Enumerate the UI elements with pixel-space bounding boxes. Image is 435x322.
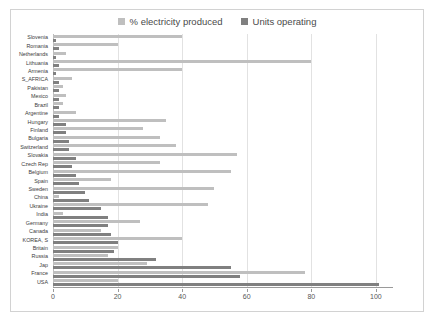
bar-units-operating bbox=[53, 47, 59, 50]
bar-pct-electricity bbox=[53, 52, 66, 55]
bar-pct-electricity bbox=[53, 229, 101, 232]
bar-units-operating bbox=[53, 39, 56, 42]
bar-units-operating bbox=[53, 123, 66, 126]
bar-pct-electricity bbox=[53, 271, 305, 274]
legend-entry-pct-electricity: % electricity produced bbox=[118, 17, 223, 27]
bar-row bbox=[53, 68, 392, 76]
bar-units-operating bbox=[53, 216, 108, 219]
bar-units-operating bbox=[53, 182, 79, 185]
category-label: Canada bbox=[29, 229, 48, 234]
bar-row bbox=[53, 228, 392, 236]
bar-pct-electricity bbox=[53, 187, 214, 190]
bar-row bbox=[53, 236, 392, 244]
x-tick-label-100: 100 bbox=[370, 293, 382, 300]
bar-units-operating bbox=[53, 148, 69, 151]
bar-row bbox=[53, 152, 392, 160]
bar-pct-electricity bbox=[53, 178, 111, 181]
category-label: Switzerland bbox=[20, 145, 48, 150]
bar-units-operating bbox=[53, 199, 89, 202]
bar-pct-electricity bbox=[53, 144, 176, 147]
x-tick-mark-60 bbox=[247, 289, 248, 292]
bar-pct-electricity bbox=[53, 136, 160, 139]
bar-row bbox=[53, 220, 392, 228]
x-tick-mark-0 bbox=[53, 289, 54, 292]
bar-units-operating bbox=[53, 250, 114, 253]
legend-swatch-pct-electricity bbox=[118, 18, 125, 25]
category-label: Netherlands bbox=[19, 52, 48, 57]
bar-units-operating bbox=[53, 81, 59, 84]
category-label: Spain bbox=[34, 179, 48, 184]
bar-row bbox=[53, 144, 392, 152]
x-tick-mark-20 bbox=[118, 289, 119, 292]
bar-row bbox=[53, 270, 392, 278]
category-label: China bbox=[34, 196, 48, 201]
category-axis-labels: SloveniaRomaniaNetherlandsLithuaniaArmen… bbox=[11, 34, 51, 287]
category-label: Slovakia bbox=[28, 154, 48, 159]
category-label: USA bbox=[37, 280, 48, 285]
bar-row bbox=[53, 253, 392, 261]
x-tick-label-80: 80 bbox=[307, 293, 315, 300]
category-label: Jap bbox=[39, 263, 48, 268]
bar-units-operating bbox=[53, 266, 231, 269]
category-label: Ukraine bbox=[29, 204, 48, 209]
legend-label-units-operating: Units operating bbox=[253, 17, 317, 27]
bar-units-operating bbox=[53, 157, 76, 160]
category-label: Russia bbox=[32, 255, 48, 260]
category-label: S_AFRICA bbox=[22, 78, 48, 83]
bar-units-operating bbox=[53, 64, 59, 67]
x-tick-mark-100 bbox=[376, 289, 377, 292]
bar-pct-electricity bbox=[53, 262, 147, 265]
category-label: Slovenia bbox=[27, 36, 48, 41]
category-label: Sweden bbox=[29, 187, 48, 192]
bar-units-operating bbox=[53, 207, 101, 210]
legend-swatch-units-operating bbox=[241, 18, 248, 25]
bar-units-operating bbox=[53, 283, 379, 286]
category-label: Romania bbox=[26, 44, 48, 49]
category-label: India bbox=[36, 213, 48, 218]
bar-row bbox=[53, 59, 392, 67]
bar-row bbox=[53, 101, 392, 109]
bar-pct-electricity bbox=[53, 111, 76, 114]
bar-units-operating bbox=[53, 191, 85, 194]
bar-row bbox=[53, 85, 392, 93]
bar-row bbox=[53, 279, 392, 287]
category-label: Mexico bbox=[31, 95, 48, 100]
bar-row bbox=[53, 34, 392, 42]
bar-row bbox=[53, 135, 392, 143]
bar-pct-electricity bbox=[53, 35, 182, 38]
bar-row bbox=[53, 186, 392, 194]
x-tick-label-20: 20 bbox=[114, 293, 122, 300]
bar-row bbox=[53, 262, 392, 270]
bar-pct-electricity bbox=[53, 220, 140, 223]
bar-pct-electricity bbox=[53, 212, 63, 215]
bar-row bbox=[53, 110, 392, 118]
category-label: Pakistan bbox=[27, 86, 48, 91]
bar-row bbox=[53, 177, 392, 185]
bar-pct-electricity bbox=[53, 94, 66, 97]
x-tick-label-60: 60 bbox=[243, 293, 251, 300]
bar-rows bbox=[53, 34, 392, 287]
bar-row bbox=[53, 51, 392, 59]
bar-row bbox=[53, 194, 392, 202]
bar-units-operating bbox=[53, 89, 59, 92]
category-label: KOREA, S bbox=[23, 238, 48, 243]
bar-pct-electricity bbox=[53, 60, 311, 63]
x-tick-label-40: 40 bbox=[178, 293, 186, 300]
bar-units-operating bbox=[53, 140, 69, 143]
chart-frame: % electricity produced Units operating S… bbox=[10, 9, 424, 312]
x-tick-mark-80 bbox=[311, 289, 312, 292]
bar-pct-electricity bbox=[53, 170, 231, 173]
bar-units-operating bbox=[53, 115, 59, 118]
bar-pct-electricity bbox=[53, 68, 182, 71]
bar-units-operating bbox=[53, 72, 56, 75]
bar-units-operating bbox=[53, 174, 76, 177]
bar-row bbox=[53, 245, 392, 253]
category-label: France bbox=[31, 272, 48, 277]
bar-units-operating bbox=[53, 165, 72, 168]
bar-row bbox=[53, 42, 392, 50]
bar-pct-electricity bbox=[53, 279, 118, 282]
bar-pct-electricity bbox=[53, 85, 63, 88]
category-label: Armenia bbox=[28, 69, 48, 74]
bar-pct-electricity bbox=[53, 77, 72, 80]
x-tick-mark-40 bbox=[182, 289, 183, 292]
